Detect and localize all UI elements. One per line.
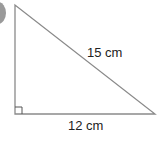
right-angle-icon (15, 107, 22, 114)
hypotenuse-label: 15 cm (87, 45, 122, 60)
triangle-outline (15, 5, 155, 114)
base-label: 12 cm (68, 118, 103, 133)
